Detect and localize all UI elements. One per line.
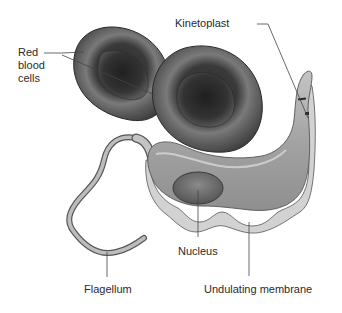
red-blood-cell-2 [152, 46, 262, 152]
trypanosome-diagram [0, 0, 342, 313]
label-undulating-membrane: Undulating membrane [204, 283, 312, 296]
label-nucleus: Nucleus [178, 245, 218, 258]
label-flagellum: Flagellum [84, 283, 132, 296]
flagellum [69, 137, 152, 253]
label-red-blood-cells: Red blood cells [18, 46, 45, 85]
label-kinetoplast: Kinetoplast [175, 17, 229, 30]
